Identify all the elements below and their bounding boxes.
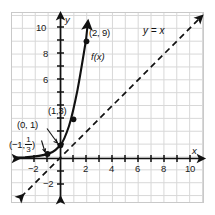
- annotation-neg1-close: ): [32, 139, 35, 150]
- annotation-point-negative1-one-third: (−1,13): [9, 136, 35, 154]
- y-tick-label-10: 10: [36, 22, 46, 33]
- x-axis-label: x: [192, 145, 197, 156]
- y-tick-label-8: 8: [43, 48, 48, 59]
- annotation-curve-fx: f(x): [91, 51, 105, 62]
- y-tick-label-negative-2: −2: [43, 178, 53, 189]
- fraction-one-third: 13: [25, 136, 31, 154]
- annotation-point-0-1: (0, 1): [17, 119, 38, 130]
- annotation-neg1-open: (−1,: [9, 139, 25, 150]
- annotation-point-2-9: (2, 9): [89, 27, 110, 38]
- x-tick-label-6: 6: [135, 163, 140, 174]
- grid-lines: [12, 13, 203, 202]
- annotation-point-1-3: (1,3): [48, 105, 67, 116]
- annotation-identity-line: y = x: [143, 25, 164, 36]
- x-tick-label-2: 2: [83, 163, 88, 174]
- fraction-numerator: 1: [25, 136, 31, 144]
- plot-area: [11, 12, 204, 203]
- x-tick-label-10: 10: [185, 163, 195, 174]
- x-tick-label-negative-2: −2: [28, 163, 38, 174]
- y-tick-label-6: 6: [43, 74, 48, 85]
- x-tick-label-4: 4: [109, 163, 114, 174]
- x-tick-label-8: 8: [161, 163, 166, 174]
- exponential-function-graph: 10 8 6 −2 −2 2 4 6 8 10 y x (2, 9) f(x) …: [0, 0, 215, 215]
- fraction-denominator: 3: [25, 145, 31, 154]
- y-axis-label: y: [65, 14, 70, 25]
